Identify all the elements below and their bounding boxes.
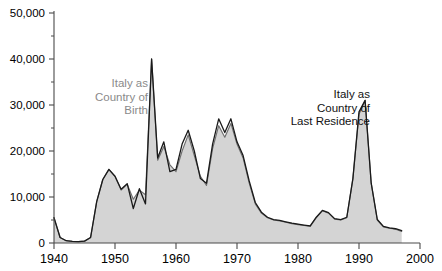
- annotation-residence: Italy asCountry ofLast Residence: [291, 88, 371, 127]
- y-tick-label: 40,000: [10, 53, 45, 65]
- annotation-line: Birth: [124, 104, 148, 116]
- x-tick-label: 1940: [40, 252, 68, 266]
- x-axis-ticks: 1940195019601970198019902000: [40, 243, 434, 266]
- annotation-line: Italy as: [334, 88, 371, 100]
- y-tick-label: 0: [39, 237, 45, 249]
- birth-area-path: [54, 59, 402, 243]
- x-tick-label: 1980: [284, 252, 312, 266]
- x-tick-label: 1970: [223, 252, 251, 266]
- y-tick-label: 10,000: [10, 191, 45, 203]
- y-tick-label: 30,000: [10, 99, 45, 111]
- immigration-area-chart: 010,00020,00030,00040,00050,000 19401950…: [0, 0, 442, 271]
- annotation-line: Country of: [95, 91, 149, 103]
- annotation-line: Country of: [317, 102, 371, 114]
- plot-area-fill: [54, 59, 402, 243]
- x-tick-label: 1960: [162, 252, 190, 266]
- x-tick-label: 2000: [406, 252, 434, 266]
- y-tick-label: 20,000: [10, 145, 45, 157]
- y-axis-ticks: 010,00020,00030,00040,00050,000: [10, 7, 54, 249]
- x-tick-label: 1950: [101, 252, 129, 266]
- chart-annotations: Italy asCountry ofBirthItaly asCountry o…: [95, 77, 371, 127]
- chart-container: 010,00020,00030,00040,00050,000 19401950…: [0, 0, 442, 271]
- annotation-line: Italy as: [112, 77, 149, 89]
- annotation-birth: Italy asCountry ofBirth: [95, 77, 149, 116]
- y-tick-label: 50,000: [10, 7, 45, 19]
- x-tick-label: 1990: [345, 252, 373, 266]
- annotation-line: Last Residence: [291, 115, 370, 127]
